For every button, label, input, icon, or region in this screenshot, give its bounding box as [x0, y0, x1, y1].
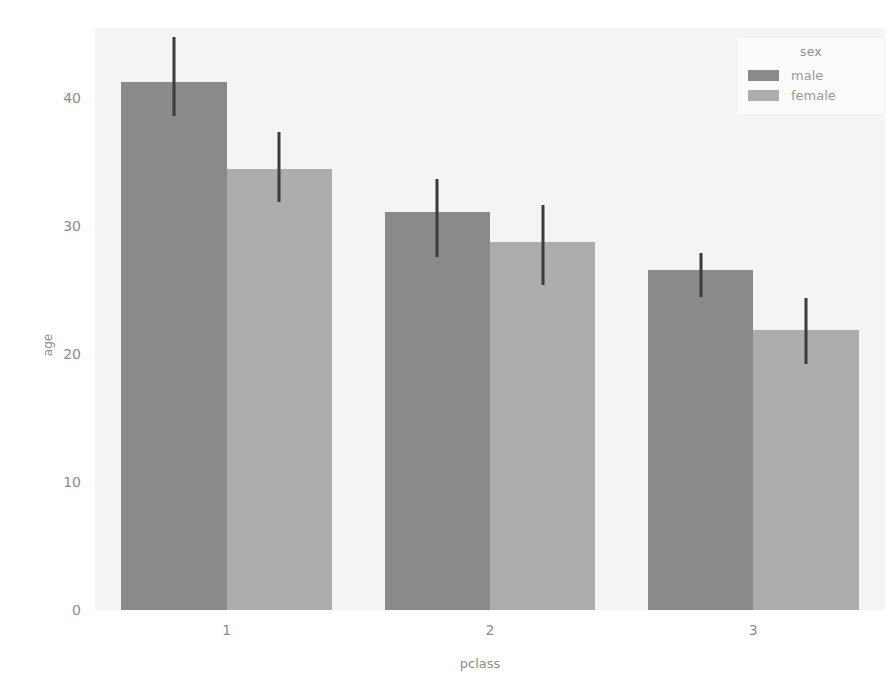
bar-female-pclass-2[interactable]: [490, 242, 595, 610]
bar-female-pclass-3[interactable]: [753, 330, 858, 610]
legend-label-male: male: [791, 68, 823, 83]
error-bar-female-pclass-2: [541, 205, 544, 286]
legend-item-male[interactable]: male: [748, 65, 874, 85]
y-tick-label: 30: [63, 218, 81, 234]
error-bar-male-pclass-1: [173, 37, 176, 116]
legend: sex male female: [738, 38, 884, 114]
legend-swatch-male-icon: [748, 70, 779, 81]
error-bar-female-pclass-3: [805, 298, 808, 365]
x-tick-label: 3: [749, 622, 758, 638]
legend-item-female[interactable]: female: [748, 85, 874, 105]
x-axis-label: pclass: [460, 656, 501, 671]
error-bar-male-pclass-2: [436, 179, 439, 257]
y-tick-label: 0: [72, 602, 81, 618]
bar-male-pclass-2[interactable]: [385, 212, 490, 610]
error-bar-female-pclass-1: [278, 132, 281, 202]
figure: 010203040123 age pclass sex male female: [0, 0, 895, 690]
legend-swatch-female-icon: [748, 90, 779, 101]
bar-male-pclass-3[interactable]: [648, 270, 753, 610]
bar-male-pclass-1[interactable]: [121, 82, 226, 610]
plot-axes: 010203040123: [95, 28, 885, 610]
y-tick-label: 20: [63, 346, 81, 362]
legend-label-female: female: [791, 88, 836, 103]
bar-female-pclass-1[interactable]: [227, 169, 332, 610]
y-tick-label: 40: [63, 90, 81, 106]
error-bar-male-pclass-3: [699, 253, 702, 296]
x-tick-label: 2: [486, 622, 495, 638]
legend-title: sex: [748, 45, 874, 59]
x-tick-label: 1: [222, 622, 231, 638]
y-axis-label: age: [41, 334, 55, 356]
y-tick-label: 10: [63, 474, 81, 490]
